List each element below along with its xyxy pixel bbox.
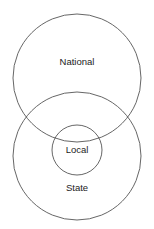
state-circle (13, 92, 141, 220)
national-circle (13, 14, 141, 142)
local-label: Local (66, 144, 89, 155)
venn-diagram: National State Local (0, 0, 154, 229)
national-label: National (60, 56, 95, 67)
state-label: State (66, 182, 88, 193)
